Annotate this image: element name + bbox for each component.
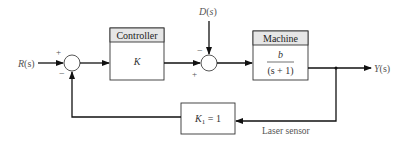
summing-junction-2 <box>201 55 217 71</box>
controller-block: Controller K <box>110 28 164 80</box>
machine-header: Machine <box>263 33 299 44</box>
diagram-svg: R(s) + − Controller K D(s) − + Machine b… <box>0 0 402 149</box>
summing-junction-1 <box>64 55 80 71</box>
disturbance-label: D(s) <box>198 6 217 18</box>
machine-denominator: (s + 1) <box>267 65 293 77</box>
sum1-minus-sign: − <box>59 68 65 79</box>
block-diagram: R(s) + − Controller K D(s) − + Machine b… <box>0 0 402 149</box>
input-label: R(s) <box>17 58 35 70</box>
laser-sensor-caption: Laser sensor <box>262 126 311 136</box>
machine-numerator: b <box>278 49 283 60</box>
machine-block: Machine b (s + 1) <box>253 31 308 80</box>
sum2-minus-sign: − <box>197 45 203 56</box>
output-label: Y(s) <box>374 63 390 75</box>
sum2-plus-sign: + <box>192 69 197 79</box>
sensor-block: K1 = 1 <box>181 103 235 134</box>
sum1-plus-sign: + <box>56 47 61 57</box>
controller-gain: K <box>133 56 142 67</box>
controller-header: Controller <box>116 30 158 41</box>
